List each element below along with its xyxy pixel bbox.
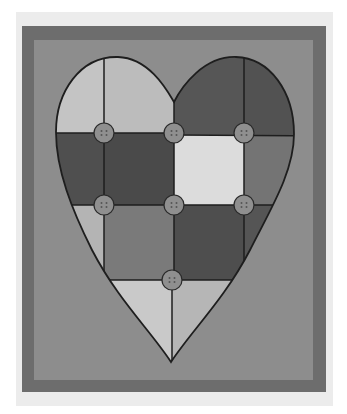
patch-r2-midleft (104, 133, 174, 205)
button-icon (94, 123, 114, 143)
button-icon (94, 195, 114, 215)
button-icon (164, 123, 184, 143)
button-icon (162, 270, 182, 290)
patch-r2-midright (174, 135, 244, 205)
button-icon (234, 195, 254, 215)
quilted-heart-illustration (0, 0, 347, 414)
button-icon (164, 195, 184, 215)
patch-r3-midright (174, 205, 244, 280)
button-icon (234, 123, 254, 143)
patch-r3-midleft (104, 205, 174, 280)
